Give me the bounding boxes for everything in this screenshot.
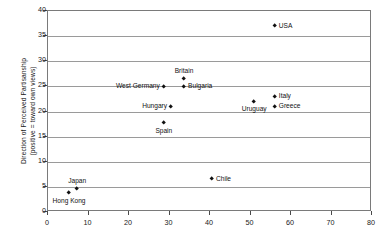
- x-tick-mark-0: [47, 211, 48, 215]
- data-point-usa: [272, 24, 277, 29]
- data-point-chile: [210, 176, 215, 181]
- data-point-west-germany: [161, 84, 166, 89]
- data-point-greece: [272, 104, 277, 109]
- data-point-uruguay: [252, 99, 257, 104]
- data-point-label-spain: Spain: [155, 127, 172, 135]
- data-point-label-usa: USA: [279, 22, 293, 30]
- y-tick-label-0: 0: [6, 207, 46, 215]
- data-point-label-britain: Britain: [175, 67, 194, 75]
- data-point-label-chile: Chile: [216, 175, 231, 183]
- x-tick-mark-50: [250, 211, 251, 215]
- gridline-y-30: [48, 61, 370, 62]
- gridline-y-10: [48, 162, 370, 163]
- data-point-hong-kong: [67, 191, 72, 196]
- data-point-label-hungary: Hungary: [142, 102, 167, 110]
- data-point-label-japan: Japan: [68, 177, 86, 185]
- data-point-label-italy: Italy: [279, 92, 291, 100]
- data-point-hungary: [169, 104, 174, 109]
- y-tick-label-25: 25: [6, 81, 46, 89]
- x-tick-mark-70: [331, 211, 332, 215]
- x-tick-mark-60: [290, 211, 291, 215]
- data-point-label-uruguay: Uruguay: [242, 105, 267, 113]
- x-tick-label-10: 10: [68, 219, 108, 227]
- y-tick-label-35: 35: [6, 31, 46, 39]
- data-point-label-bulgaria: Bulgaria: [188, 82, 212, 90]
- x-tick-label-20: 20: [108, 219, 148, 227]
- data-point-britain: [182, 76, 187, 81]
- x-tick-label-80: 80: [351, 219, 379, 227]
- y-tick-label-15: 15: [6, 132, 46, 140]
- x-tick-mark-40: [209, 211, 210, 215]
- plot-area: USABritainBulgariaWest GermanyHungarySpa…: [47, 10, 371, 211]
- scatter-chart: Direction of Perceived Partisanship (pos…: [0, 0, 379, 247]
- gridline-y-35: [48, 36, 370, 37]
- data-point-label-hong-kong: Hong Kong: [53, 197, 86, 205]
- y-tick-label-30: 30: [6, 56, 46, 64]
- x-tick-label-40: 40: [189, 219, 229, 227]
- data-point-italy: [272, 94, 277, 99]
- x-tick-label-60: 60: [270, 219, 310, 227]
- data-point-spain: [161, 121, 166, 126]
- x-tick-mark-30: [169, 211, 170, 215]
- y-tick-label-20: 20: [6, 107, 46, 115]
- x-tick-label-70: 70: [311, 219, 351, 227]
- x-tick-mark-20: [128, 211, 129, 215]
- data-point-label-west-germany: West Germany: [116, 82, 160, 90]
- y-tick-label-40: 40: [6, 6, 46, 14]
- gridline-y-5: [48, 187, 370, 188]
- gridline-y-20: [48, 112, 370, 113]
- y-tick-label-5: 5: [6, 182, 46, 190]
- data-point-bulgaria: [182, 84, 187, 89]
- x-tick-label-0: 0: [27, 219, 67, 227]
- x-tick-label-30: 30: [149, 219, 189, 227]
- gridline-y-15: [48, 137, 370, 138]
- y-tick-label-10: 10: [6, 157, 46, 165]
- x-tick-label-50: 50: [230, 219, 270, 227]
- data-point-label-greece: Greece: [279, 102, 301, 110]
- x-tick-mark-80: [371, 211, 372, 215]
- x-tick-mark-10: [88, 211, 89, 215]
